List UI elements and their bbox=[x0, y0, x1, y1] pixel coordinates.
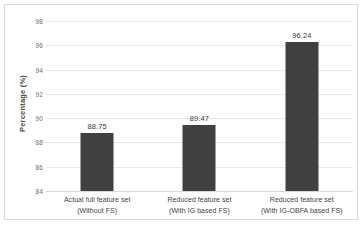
bar[interactable] bbox=[183, 125, 216, 191]
x-axis-category-labels: Actual full feature set(Without FS)Reduc… bbox=[46, 194, 353, 220]
bar-slot: 88.75 bbox=[46, 21, 148, 191]
bar-value-label: 88.75 bbox=[88, 122, 107, 131]
category-label-line-2: (With IG based FS) bbox=[148, 205, 250, 216]
bar[interactable] bbox=[81, 133, 114, 191]
category-label-line-1: Actual full feature set bbox=[64, 196, 131, 203]
x-axis-category-label: Reduced feature set(With IG based FS) bbox=[148, 194, 250, 216]
x-axis-category-label: Reduced feature set(With IG-OBFA based F… bbox=[251, 194, 353, 216]
y-axis-tick-label: 84 bbox=[36, 188, 43, 195]
y-axis-tick-label: 98 bbox=[36, 18, 43, 25]
bar-slot: 96.24 bbox=[251, 21, 353, 191]
category-label-line-1: Reduced feature set bbox=[270, 196, 334, 203]
bar[interactable] bbox=[285, 42, 318, 191]
gridline bbox=[46, 191, 353, 192]
x-axis-category-label: Actual full feature set(Without FS) bbox=[46, 194, 148, 216]
bar-value-label: 96.24 bbox=[292, 31, 311, 40]
plot-area: 88.7589.4796.24 bbox=[46, 21, 353, 191]
y-axis-tick-label: 94 bbox=[36, 66, 43, 73]
category-label-line-1: Reduced feature set bbox=[167, 196, 231, 203]
y-axis-tick-labels: 8486889092949698 bbox=[25, 21, 45, 191]
chart-container: Percentage (%) 8486889092949698 88.7589.… bbox=[4, 4, 358, 220]
category-label-line-2: (With IG-OBFA based FS) bbox=[251, 205, 353, 216]
y-axis-tick-label: 86 bbox=[36, 163, 43, 170]
y-axis-tick-label: 96 bbox=[36, 42, 43, 49]
y-axis-tick-label: 92 bbox=[36, 90, 43, 97]
bar-value-label: 89.47 bbox=[190, 114, 209, 123]
y-axis-tick-label: 88 bbox=[36, 139, 43, 146]
bar-slot: 89.47 bbox=[148, 21, 250, 191]
category-label-line-2: (Without FS) bbox=[46, 205, 148, 216]
y-axis-tick-label: 90 bbox=[36, 115, 43, 122]
